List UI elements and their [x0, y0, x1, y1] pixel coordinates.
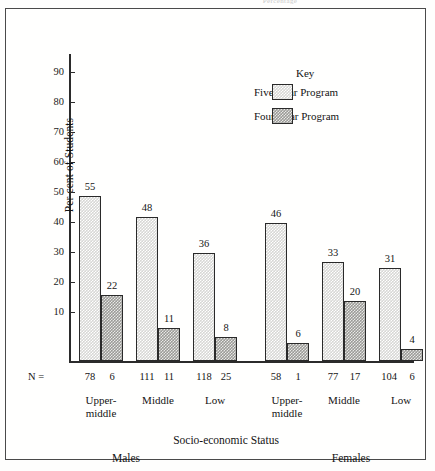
category-label-line2: middle — [63, 407, 139, 420]
bar-value-label: 6 — [283, 329, 313, 340]
y-axis-title: Per cent of Students — [63, 70, 75, 260]
n-equals-label: N = — [28, 371, 44, 382]
n-value: 25 — [213, 371, 239, 382]
bar-value-label: 8 — [211, 323, 241, 334]
legend-label: Four-Year Program — [254, 110, 339, 122]
y-tick-mark — [69, 72, 75, 73]
bar-females-upper-middle-four-year[interactable] — [287, 343, 309, 361]
bar-value-label: 20 — [340, 287, 370, 298]
legend-title: Key — [296, 67, 404, 79]
n-value: 1 — [285, 371, 311, 382]
category-label-line2: middle — [249, 407, 325, 420]
group-label-males: Males — [81, 452, 171, 464]
bar-value-label: 46 — [261, 209, 291, 220]
y-tick-label: 10 — [34, 307, 64, 318]
y-tick-mark — [69, 132, 75, 133]
legend-label: Five-Year Program — [254, 86, 338, 98]
category-label-females-low: Low — [363, 394, 435, 407]
bar-females-low-four-year[interactable] — [401, 349, 423, 361]
y-tick-mark — [69, 312, 75, 313]
category-label-line1: Low — [177, 394, 253, 407]
y-tick-mark — [69, 222, 75, 223]
y-tick-mark — [69, 102, 75, 103]
top-caption: Percentage — [200, 0, 360, 4]
bar-chart-figure: Percentage Per cent of Students 90 80 70… — [0, 0, 435, 471]
category-label-males-low: Low — [177, 394, 253, 407]
bar-males-low-four-year[interactable] — [215, 337, 237, 361]
bar-value-label: 22 — [97, 281, 127, 292]
n-value: 11 — [156, 371, 182, 382]
bar-value-label: 36 — [189, 239, 219, 250]
group-label-females: Females — [306, 452, 396, 464]
legend: Key Five-Year Program Four-Year Program — [254, 67, 404, 131]
bar-males-upper-middle-five-year[interactable] — [79, 196, 101, 361]
bar-males-middle-five-year[interactable] — [136, 217, 158, 361]
category-label-line1: Low — [363, 394, 435, 407]
y-tick-mark — [69, 282, 75, 283]
legend-item-four-year: Four-Year Program — [254, 107, 404, 124]
bar-males-middle-four-year[interactable] — [158, 328, 180, 361]
y-tick-mark — [69, 252, 75, 253]
n-value: 17 — [342, 371, 368, 382]
bar-males-low-five-year[interactable] — [193, 253, 215, 361]
y-tick-label: 70 — [34, 127, 64, 138]
bar-value-label: 4 — [397, 335, 427, 346]
bar-females-upper-middle-five-year[interactable] — [265, 223, 287, 361]
legend-item-five-year: Five-Year Program — [254, 83, 404, 100]
bar-females-low-five-year[interactable] — [379, 268, 401, 361]
bar-value-label: 48 — [132, 203, 162, 214]
light-checkered-swatch-icon — [272, 84, 293, 100]
bar-females-middle-four-year[interactable] — [344, 301, 366, 361]
y-tick-label: 60 — [34, 157, 64, 168]
x-axis-line — [69, 361, 414, 363]
y-tick-label: 90 — [34, 67, 64, 78]
bar-value-label: 33 — [318, 248, 348, 259]
y-tick-label: 50 — [34, 187, 64, 198]
bar-males-upper-middle-four-year[interactable] — [101, 295, 123, 361]
n-value: 6 — [399, 371, 425, 382]
bar-value-label: 55 — [75, 182, 105, 193]
y-tick-label: 20 — [34, 277, 64, 288]
n-value: 6 — [99, 371, 125, 382]
y-tick-label: 80 — [34, 97, 64, 108]
bar-value-label: 31 — [375, 254, 405, 265]
dark-checkered-swatch-icon — [272, 108, 293, 124]
y-tick-label: 30 — [34, 247, 64, 258]
figure-frame: Per cent of Students 90 80 70 60 50 40 3… — [5, 8, 426, 460]
y-tick-label: 40 — [34, 217, 64, 228]
x-axis-title: Socio-economic Status — [126, 434, 326, 446]
y-tick-mark — [69, 162, 75, 163]
bar-value-label: 11 — [154, 314, 184, 325]
bar-females-middle-five-year[interactable] — [322, 262, 344, 361]
